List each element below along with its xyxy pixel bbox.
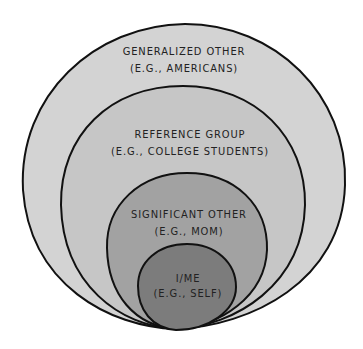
- nested-circles-diagram: GENERALIZED OTHER (E.G., AMERICANS) REFE…: [0, 0, 363, 349]
- label-significant-other-title: SIGNIFICANT OTHER: [131, 208, 247, 221]
- label-reference-group-title: REFERENCE GROUP: [135, 128, 246, 141]
- label-generalized-other-title: GENERALIZED OTHER: [123, 45, 246, 58]
- label-significant-other-example: (E.G., MOM): [155, 225, 224, 238]
- label-self-example: (E.G., SELF): [154, 287, 223, 300]
- label-self-title: I/ME: [176, 272, 201, 285]
- label-generalized-other-example: (E.G., AMERICANS): [130, 62, 238, 75]
- label-reference-group-example: (E.G., COLLEGE STUDENTS): [111, 145, 269, 158]
